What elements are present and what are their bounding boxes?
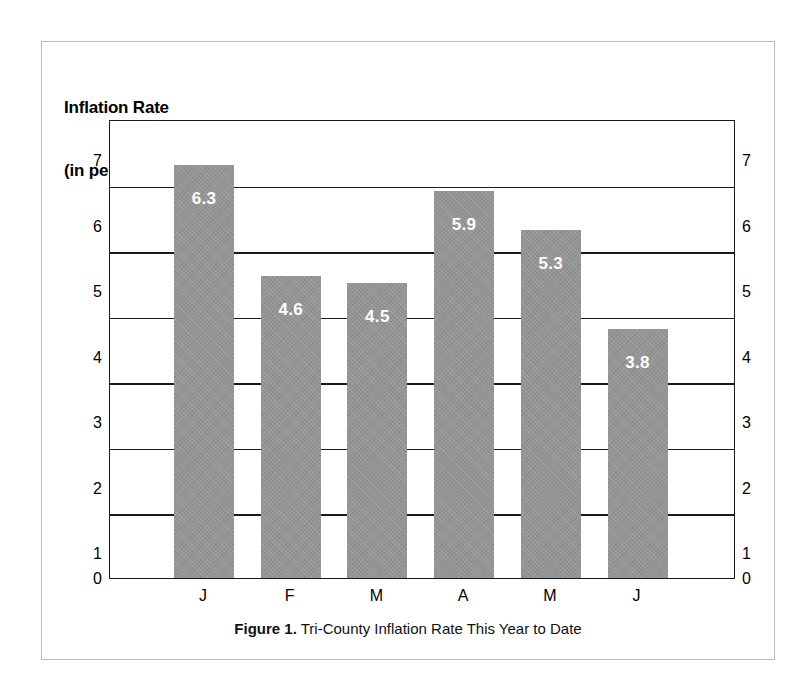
x-axis-label-may: M — [520, 587, 580, 605]
bar-june: 3.8 — [608, 329, 668, 578]
x-axis-label-february: F — [260, 587, 320, 605]
bar-value-label: 5.9 — [434, 215, 494, 235]
bar-march: 4.5 — [347, 283, 407, 578]
y-axis-right-tick-1: 1 — [742, 546, 764, 562]
y-axis-right-tick-4: 4 — [742, 350, 764, 366]
y-axis-left-tick-4: 4 — [80, 350, 102, 366]
figure-caption-label: Figure 1. — [234, 620, 297, 637]
y-axis-left-tick-5: 5 — [80, 284, 102, 300]
figure-caption-text: Tri-County Inflation Rate This Year to D… — [301, 620, 582, 637]
y-axis-right-tick-2: 2 — [742, 481, 764, 497]
bar-january: 6.3 — [174, 165, 234, 578]
y-axis-right-tick-0: 0 — [742, 571, 764, 587]
x-axis-label-june: J — [607, 587, 667, 605]
bar-april: 5.9 — [434, 191, 494, 578]
x-axis-label-march: M — [346, 587, 406, 605]
bar-value-label: 3.8 — [608, 353, 668, 373]
y-axis-left-tick-2: 2 — [80, 481, 102, 497]
bar-value-label: 4.5 — [347, 307, 407, 327]
y-axis-left-tick-1: 1 — [80, 546, 102, 562]
x-axis-label-april: A — [433, 587, 493, 605]
y-axis-left-tick-3: 3 — [80, 415, 102, 431]
y-axis-right-tick-5: 5 — [742, 284, 764, 300]
y-axis-right-tick-6: 6 — [742, 219, 764, 235]
bar-february: 4.6 — [261, 276, 321, 578]
bar-value-label: 5.3 — [521, 254, 581, 274]
bar-value-label: 6.3 — [174, 189, 234, 209]
x-axis-label-january: J — [173, 587, 233, 605]
y-axis-left-tick-6: 6 — [80, 219, 102, 235]
bar-may: 5.3 — [521, 230, 581, 578]
y-axis-left-tick-0: 0 — [80, 571, 102, 587]
y-axis-left-tick-7: 7 — [80, 153, 102, 169]
figure-caption: Figure 1. Tri-County Inflation Rate This… — [42, 620, 774, 637]
chart-title-line1: Inflation Rate — [64, 97, 169, 118]
y-axis-right-tick-7: 7 — [742, 153, 764, 169]
figure-frame: Inflation Rate (in percent) 7 6 5 4 3 2 … — [41, 41, 775, 660]
plot-area: 6.34.64.55.95.33.8 — [109, 120, 735, 579]
bar-value-label: 4.6 — [261, 300, 321, 320]
y-axis-right-tick-3: 3 — [742, 415, 764, 431]
